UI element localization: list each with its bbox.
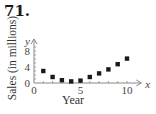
y-tick-label: 4: [25, 61, 31, 73]
x-tick-label: 5: [78, 84, 84, 96]
data-point: [116, 62, 120, 66]
x-tick-label: 10: [122, 84, 134, 96]
data-point: [78, 78, 82, 82]
data-point: [97, 71, 101, 75]
data-point: [125, 56, 129, 60]
data-point: [41, 69, 45, 73]
data-point: [60, 78, 64, 82]
data-point: [50, 75, 54, 79]
data-point: [88, 75, 92, 79]
y-variable-label: y: [24, 35, 30, 47]
data-point: [106, 67, 110, 71]
y-tick-label: 0: [25, 77, 31, 89]
x-variable-label: x: [144, 78, 150, 90]
data-point: [69, 79, 73, 83]
x-tick-label: 0: [31, 84, 37, 96]
scatter-plot: 0480510xy: [0, 0, 156, 114]
